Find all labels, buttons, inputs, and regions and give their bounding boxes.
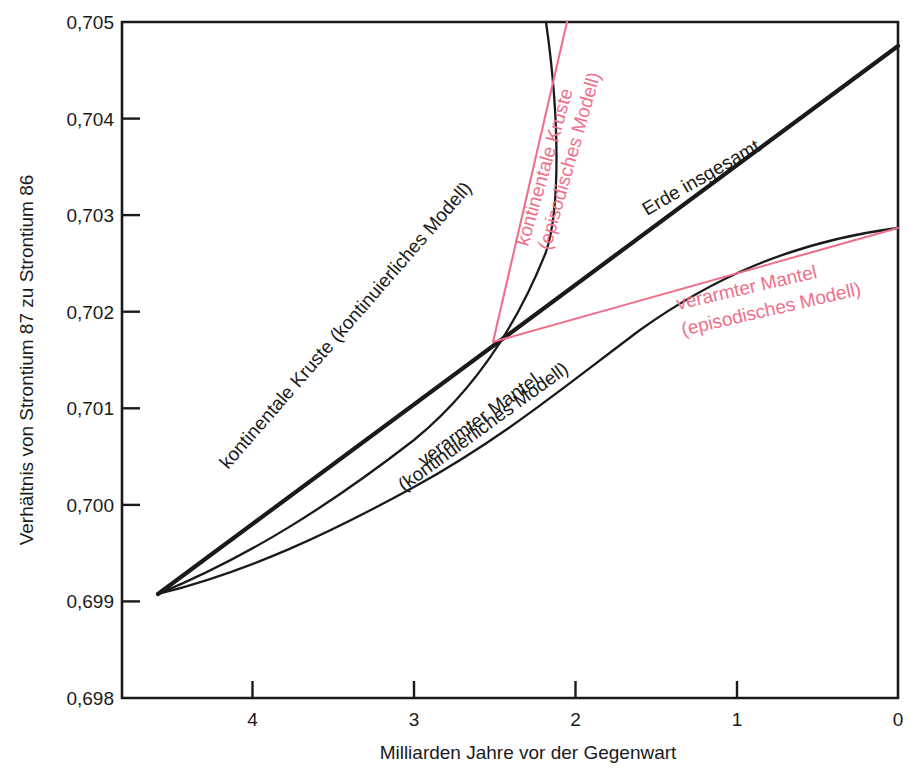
- x-tick-label-2: 2: [570, 709, 581, 730]
- y-tick-label-4: 0,701: [66, 398, 114, 419]
- x-tick-label-1: 3: [409, 709, 420, 730]
- y-tick-label-6: 0,699: [66, 591, 114, 612]
- x-axis-title: Milliarden Jahre vor der Gegenwart: [380, 742, 677, 763]
- y-tick-label-1: 0,704: [66, 109, 114, 130]
- chart-canvas: 0,705 0,704 0,703 0,702 0,701 0,700 0,69…: [0, 0, 921, 772]
- x-tick-label-0: 4: [247, 709, 258, 730]
- y-tick-label-5: 0,700: [66, 495, 114, 516]
- y-tick-label-2: 0,703: [66, 205, 114, 226]
- x-tick-label-4: 0: [893, 709, 904, 730]
- y-tick-label-3: 0,702: [66, 302, 114, 323]
- plot-frame: [122, 22, 898, 698]
- strontium-ratio-chart: 0,705 0,704 0,703 0,702 0,701 0,700 0,69…: [0, 0, 921, 772]
- y-tick-label-0: 0,705: [66, 12, 114, 33]
- x-tick-label-3: 1: [732, 709, 743, 730]
- x-axis-tick-labels: 4 3 2 1 0: [247, 709, 903, 730]
- y-axis-tick-labels: 0,705 0,704 0,703 0,702 0,701 0,700 0,69…: [66, 12, 114, 709]
- y-tick-label-7: 0,698: [66, 688, 114, 709]
- y-axis-title: Verhältnis von Strontium 87 zu Strontium…: [16, 175, 37, 546]
